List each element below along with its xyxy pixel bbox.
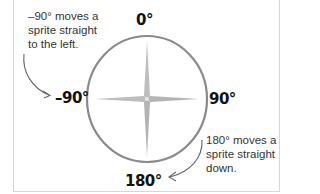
arrow-left-note-icon — [24, 54, 50, 98]
compass-star-icon — [95, 41, 199, 157]
label-0-degrees: 0° — [136, 11, 153, 29]
label-minus-90-degrees: –90° — [55, 89, 89, 107]
note-minus-90: –90° moves a sprite straight to the left… — [28, 9, 108, 51]
label-180-degrees: 180° — [125, 172, 162, 190]
label-90-degrees: 90° — [209, 90, 236, 108]
note-180: 180° moves a sprite straight down. — [206, 133, 286, 175]
